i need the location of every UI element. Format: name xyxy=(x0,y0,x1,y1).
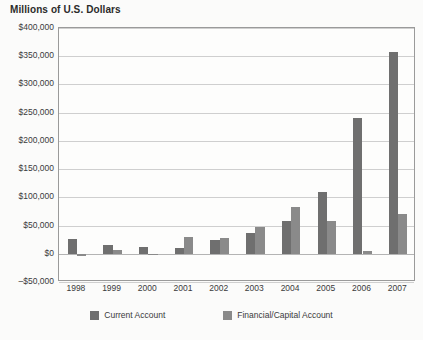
plot-area xyxy=(58,27,415,281)
x-axis-tick-label: 2002 xyxy=(209,283,228,293)
legend-swatch-icon xyxy=(223,311,232,320)
x-axis-tick-label: 2003 xyxy=(245,283,264,293)
bar xyxy=(291,207,300,254)
bar-series-container xyxy=(59,28,414,280)
legend-swatch-icon xyxy=(90,311,99,320)
legend-label: Current Account xyxy=(104,310,165,320)
bar xyxy=(103,245,112,254)
bar xyxy=(113,250,122,253)
bar xyxy=(77,254,86,256)
y-axis-tick-label: $0 xyxy=(0,248,54,258)
x-axis: 1998199920002001200220032004200520062007 xyxy=(58,283,415,297)
legend-item[interactable]: Current Account xyxy=(90,310,165,320)
x-axis-tick-label: 2001 xyxy=(174,283,193,293)
bar xyxy=(220,238,229,254)
x-axis-tick-label: 2007 xyxy=(388,283,407,293)
y-axis-tick-label: $150,000 xyxy=(0,163,54,173)
y-axis-tick-label: $400,000 xyxy=(0,22,54,32)
x-axis-tick-label: 1998 xyxy=(66,283,85,293)
legend-label: Financial/Capital Account xyxy=(237,310,332,320)
y-axis-tick-label: $200,000 xyxy=(0,135,54,145)
bar xyxy=(255,227,264,254)
x-axis-tick-label: 1999 xyxy=(102,283,121,293)
x-axis-tick-label: 2004 xyxy=(281,283,300,293)
chart-page: Millions of U.S. Dollars $400,000$350,00… xyxy=(0,0,423,340)
y-axis-tick-label: $100,000 xyxy=(0,191,54,201)
bar xyxy=(318,192,327,254)
bar xyxy=(246,233,255,254)
bar xyxy=(139,247,148,254)
bar xyxy=(184,237,193,254)
page-title: Millions of U.S. Dollars xyxy=(10,4,121,15)
y-axis-tick-label: –$50,000 xyxy=(0,276,54,286)
chart-legend: Current AccountFinancial/Capital Account xyxy=(0,305,423,325)
y-axis-tick-label: $50,000 xyxy=(0,220,54,230)
y-axis-tick-label: $250,000 xyxy=(0,107,54,117)
bar xyxy=(398,214,407,254)
bar xyxy=(282,221,291,254)
bar xyxy=(175,248,184,254)
bar xyxy=(363,251,372,254)
legend-item[interactable]: Financial/Capital Account xyxy=(223,310,332,320)
x-axis-tick-label: 2005 xyxy=(316,283,335,293)
bar xyxy=(210,240,219,254)
bar xyxy=(148,254,157,256)
x-axis-tick-label: 2006 xyxy=(352,283,371,293)
bar xyxy=(327,221,336,254)
y-axis-tick-label: $350,000 xyxy=(0,50,54,60)
y-axis: $400,000$350,000$300,000$250,000$200,000… xyxy=(0,27,54,281)
bar xyxy=(353,118,362,254)
bar xyxy=(68,239,77,254)
y-axis-tick-label: $300,000 xyxy=(0,78,54,88)
x-axis-tick-label: 2000 xyxy=(138,283,157,293)
bar xyxy=(389,52,398,254)
